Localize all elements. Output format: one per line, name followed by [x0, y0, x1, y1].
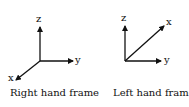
left-hand-frame-axes	[125, 26, 164, 61]
left-hand-frame-caption: Left hand frame	[113, 87, 189, 98]
left-x-label: x	[166, 17, 172, 27]
left-y-label: y	[164, 55, 170, 65]
left-x-axis	[125, 26, 164, 61]
right-hand-frame-axes	[16, 27, 73, 80]
right-hand-frame-caption: Right hand frame	[10, 87, 99, 98]
right-x-label: x	[8, 73, 14, 83]
right-y-label: y	[75, 55, 81, 65]
left-z-label: z	[121, 13, 126, 23]
right-z-label: z	[36, 14, 41, 24]
right-x-axis	[16, 61, 40, 80]
